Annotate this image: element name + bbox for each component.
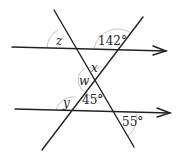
lower-parallel-line [15,109,170,113]
upper-parallel-line [12,47,166,51]
label-45: 45° [82,93,103,107]
label-y: y [62,96,70,110]
label-x: x [91,61,98,75]
label-55: 55° [122,115,143,129]
label-z: z [55,34,63,48]
angle-diagram: z 142° x w y 45° 55° [0,0,179,159]
label-w: w [79,74,90,88]
label-142: 142° [98,34,127,48]
